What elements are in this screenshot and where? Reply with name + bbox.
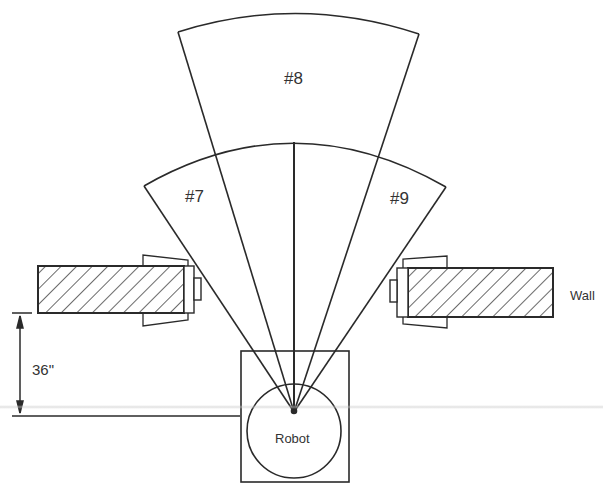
right-wall xyxy=(390,256,553,328)
sector-8-label: #8 xyxy=(284,69,303,88)
sector-9-label: #9 xyxy=(390,189,409,208)
wall-label: Wall xyxy=(570,288,595,303)
scan-artifact xyxy=(0,405,603,409)
dimension-label: 36" xyxy=(32,361,54,378)
sector-7-label: #7 xyxy=(185,187,204,206)
left-wall xyxy=(38,255,201,326)
robot-label: Robot xyxy=(275,431,310,446)
diagram-canvas: #8 #7 #9 Wall Robot 36" xyxy=(0,0,603,496)
